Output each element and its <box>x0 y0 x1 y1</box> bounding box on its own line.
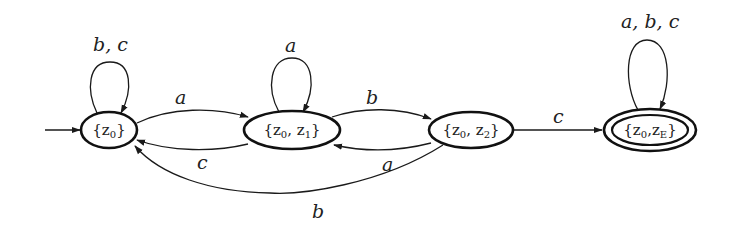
edge-label-loop-z0: b, c <box>93 33 128 55</box>
edge-z0-to-z0z1 <box>137 110 248 123</box>
edge-label-z0z2-to-z0: b <box>312 200 324 222</box>
edge-z0z1-to-z0 <box>137 140 248 150</box>
state-label-z0-z1: {z0, z1} <box>263 121 320 140</box>
edge-z0z1-to-z0z2 <box>332 110 431 119</box>
edge-z0z2-to-z0z1 <box>334 143 431 150</box>
state-z0: {z0} <box>81 112 137 148</box>
edge-label-loop-z0z1: a <box>285 34 296 56</box>
edge-label-z0z1-to-z0z2: b <box>366 86 378 108</box>
edge-loop-z0zE <box>628 40 667 110</box>
state-label-z0-zE: {z0,zE} <box>623 121 676 140</box>
edge-label-z0z1-to-z0: c <box>197 151 208 173</box>
edge-loop-z0 <box>90 62 128 113</box>
state-label-z0: {z0} <box>92 121 125 140</box>
state-z0-z2: {z0, z2} <box>429 112 513 148</box>
state-label-z0-z2: {z0, z2} <box>442 121 499 140</box>
edge-loop-z0z1 <box>272 58 311 112</box>
edge-label-z0-to-z0z1: a <box>175 86 186 108</box>
state-z0-zE-accepting: {z0,zE} <box>604 109 696 151</box>
edge-label-z0z2-to-z0zE: c <box>553 105 564 127</box>
edge-z0z2-to-z0 <box>135 145 443 193</box>
state-z0-z1: {z0, z1} <box>244 111 340 149</box>
edge-label-loop-z0zE: a, b, c <box>621 10 680 32</box>
automaton-diagram: b, c a c a b a b c a, b, c {z0} {z0, z1}… <box>0 0 734 230</box>
